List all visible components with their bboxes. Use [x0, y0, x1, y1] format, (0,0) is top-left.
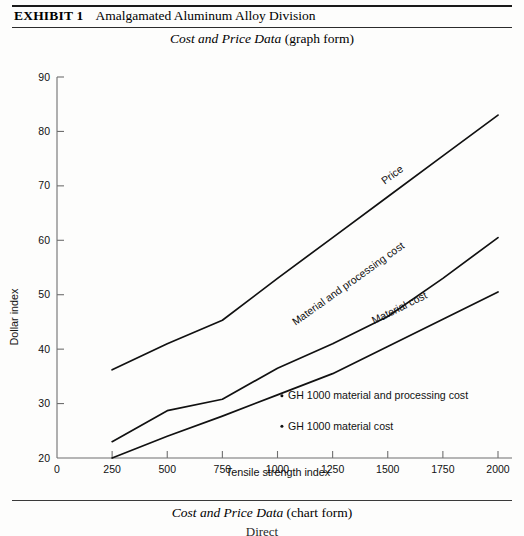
- y-tick-label: 80: [38, 125, 50, 137]
- y-tick-group: 2030405060708090: [38, 71, 64, 464]
- x-tick-label: 0: [54, 463, 60, 475]
- x-tick-label: 1750: [431, 463, 455, 475]
- series-label-2: Material cost: [370, 289, 429, 326]
- annotation-label-0: GH 1000 material and processing cost: [288, 389, 468, 401]
- x-tick-label: 250: [103, 463, 121, 475]
- chart-form-caption: Cost and Price Data (chart form): [0, 505, 524, 521]
- exhibit-page: EXHIBIT 1 Amalgamated Aluminum Alloy Div…: [0, 0, 524, 536]
- y-tick-label: 90: [38, 71, 50, 83]
- y-tick-label: 60: [38, 234, 50, 246]
- cost-price-line-chart: 2030405060708090 Dollar index 0250500750…: [0, 52, 524, 492]
- exhibit-number: EXHIBIT 1: [14, 8, 83, 24]
- series-label-0: Price: [379, 162, 406, 186]
- y-tick-label: 30: [38, 397, 50, 409]
- y-tick-label: 50: [38, 288, 50, 300]
- x-tick-label: 1500: [376, 463, 400, 475]
- y-axis: 2030405060708090 Dollar index: [8, 71, 64, 464]
- graph-caption-italic: Cost and Price Data: [170, 31, 281, 46]
- series-group: [112, 115, 498, 458]
- annotation-label-1: GH 1000 material cost: [288, 420, 393, 432]
- chart-form-caption-italic: Cost and Price Data: [172, 505, 283, 520]
- footer-rule: [12, 500, 512, 501]
- annotation-bullet-1: [280, 425, 283, 428]
- top-rule: [12, 5, 512, 7]
- x-tick-label: 500: [158, 463, 176, 475]
- annotation-group: GH 1000 material and processing costGH 1…: [280, 389, 468, 431]
- header-underline-rule: [12, 27, 512, 28]
- x-axis: 025050075010001250150017502000 Tensile s…: [54, 451, 512, 478]
- cut-off-text: Direct: [0, 524, 524, 536]
- x-tick-label: 2000: [486, 463, 510, 475]
- y-tick-label: 70: [38, 179, 50, 191]
- series-line-1: [112, 238, 498, 442]
- chart-form-caption-form: (chart form): [287, 505, 353, 520]
- series-label-group: PriceMaterial and processing costMateria…: [290, 162, 429, 327]
- y-tick-label: 40: [38, 343, 50, 355]
- x-axis-title: Tensile strength index: [226, 466, 331, 478]
- graph-caption: Cost and Price Data (graph form): [0, 31, 524, 47]
- graph-caption-form: (graph form): [285, 31, 354, 46]
- exhibit-title: Amalgamated Aluminum Alloy Division: [95, 8, 315, 24]
- y-tick-label: 20: [38, 452, 50, 464]
- exhibit-header: EXHIBIT 1 Amalgamated Aluminum Alloy Div…: [14, 8, 510, 27]
- annotation-bullet-0: [280, 394, 283, 397]
- chart-container: 2030405060708090 Dollar index 0250500750…: [0, 52, 524, 492]
- y-axis-title: Dollar index: [8, 288, 20, 346]
- series-line-0: [112, 115, 498, 370]
